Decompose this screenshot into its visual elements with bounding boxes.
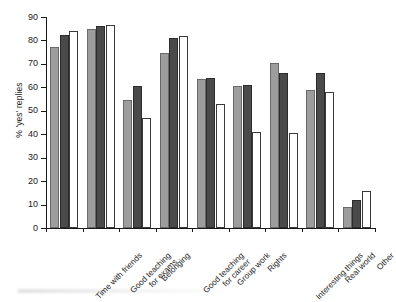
bar — [206, 78, 215, 228]
y-tick — [41, 181, 46, 182]
plot-area: 0102030405060708090 Time with friendsGoo… — [46, 17, 375, 228]
y-tick — [41, 64, 46, 65]
bar — [252, 132, 261, 228]
y-tick-label: 90 — [28, 13, 38, 22]
bar — [325, 92, 334, 228]
y-tick-label: 60 — [28, 83, 38, 92]
x-tick — [83, 228, 84, 232]
y-tick — [41, 205, 46, 206]
x-tick — [375, 228, 376, 232]
x-tick-label: Other — [375, 251, 396, 272]
y-tick-label: 30 — [28, 153, 38, 162]
bar — [169, 38, 178, 228]
bar-group — [160, 17, 188, 228]
bar — [270, 63, 279, 228]
bar — [289, 133, 298, 228]
y-tick-label: 10 — [28, 200, 38, 209]
y-tick-label: 80 — [28, 36, 38, 45]
bar — [343, 207, 352, 228]
bar-group — [123, 17, 151, 228]
bar — [243, 85, 252, 228]
x-tick — [119, 228, 120, 232]
y-tick-label: 70 — [28, 59, 38, 68]
x-tick — [192, 228, 193, 232]
bar — [60, 35, 69, 228]
bar-group — [270, 17, 298, 228]
bar-group — [197, 17, 225, 228]
y-tick-label: 50 — [28, 106, 38, 115]
bar-group — [233, 17, 261, 228]
y-tick — [41, 17, 46, 18]
bar — [352, 200, 361, 228]
bar — [160, 53, 169, 228]
x-tick — [46, 228, 47, 232]
x-tick — [338, 228, 339, 232]
y-tick — [41, 134, 46, 135]
x-tick — [265, 228, 266, 232]
y-axis-label: % 'yes' replies — [14, 45, 24, 175]
bar — [279, 73, 288, 228]
y-tick — [41, 40, 46, 41]
bar — [96, 26, 105, 228]
bar — [106, 25, 115, 228]
y-tick-label: 40 — [28, 130, 38, 139]
bar — [197, 79, 206, 228]
bar — [133, 86, 142, 228]
y-tick — [41, 158, 46, 159]
bar — [216, 104, 225, 228]
x-axis-line — [46, 228, 375, 229]
bar-group — [87, 17, 115, 228]
y-tick — [41, 87, 46, 88]
x-tick — [156, 228, 157, 232]
y-tick-label: 20 — [28, 177, 38, 186]
bar-group — [343, 17, 371, 228]
bar — [69, 31, 78, 228]
bar — [179, 36, 188, 228]
x-tick — [302, 228, 303, 232]
y-tick-label: 0 — [33, 224, 38, 233]
bar — [50, 47, 59, 228]
page-artifact — [18, 289, 238, 293]
bar — [123, 100, 132, 228]
bar — [233, 86, 242, 228]
bar — [362, 191, 371, 229]
bar-group — [50, 17, 78, 228]
bar-group — [306, 17, 334, 228]
bar — [142, 118, 151, 228]
bar — [306, 90, 315, 228]
x-tick — [229, 228, 230, 232]
y-axis-line — [46, 17, 47, 228]
bar — [87, 29, 96, 228]
y-tick — [41, 111, 46, 112]
bar — [316, 73, 325, 228]
